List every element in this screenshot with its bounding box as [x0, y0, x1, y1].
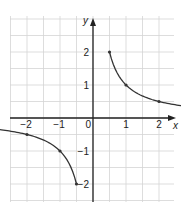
y-tick-label: −1 — [78, 146, 90, 157]
x-axis-label: x — [172, 120, 179, 131]
x-tick-label: −2 — [20, 119, 32, 130]
data-point — [108, 50, 111, 53]
curve-branch-negative — [0, 126, 77, 184]
y-tick-label: −2 — [78, 179, 90, 190]
data-point — [25, 133, 28, 136]
data-point — [124, 83, 127, 86]
data-point — [58, 149, 61, 152]
axes — [10, 18, 176, 202]
origin-label: 0 — [85, 119, 91, 130]
x-tick-label: 2 — [156, 119, 162, 130]
x-tick-label: 1 — [123, 119, 129, 130]
y-tick-label: 2 — [83, 47, 89, 58]
y-tick-label: 1 — [83, 80, 89, 91]
x-tick-label: −1 — [53, 119, 65, 130]
y-axis-label: y — [82, 15, 89, 26]
curve-branch-positive — [110, 52, 182, 110]
reciprocal-function-graph: −4−3−2−1123421−1−20xy — [0, 0, 181, 218]
data-point — [75, 182, 78, 185]
data-point — [157, 100, 160, 103]
grid-lines — [10, 16, 174, 202]
